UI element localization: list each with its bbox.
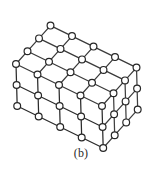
lattice-atom bbox=[89, 79, 96, 86]
lattice-atom bbox=[67, 69, 74, 76]
lattice-atom bbox=[122, 98, 129, 105]
lattice-atom bbox=[35, 92, 42, 99]
lattice-atom bbox=[99, 103, 106, 110]
lattice-atom bbox=[111, 111, 118, 118]
lattice-atom bbox=[46, 58, 53, 65]
lattice-atom bbox=[122, 77, 129, 84]
lattice-atom bbox=[78, 134, 85, 141]
lattice-atom bbox=[24, 48, 31, 55]
lattice-atom bbox=[111, 132, 118, 139]
figure-caption: (b) bbox=[0, 146, 162, 161]
lattice-atom bbox=[134, 85, 141, 92]
figure-container: (b) bbox=[0, 0, 162, 172]
lattice-atom bbox=[69, 33, 76, 40]
lattice-atom bbox=[77, 92, 84, 99]
lattice-atom bbox=[112, 54, 119, 61]
lattice-atom bbox=[35, 113, 42, 120]
lattice-atom bbox=[13, 82, 20, 89]
lattice-atom bbox=[123, 119, 130, 126]
lattice-atom bbox=[57, 124, 64, 131]
atom-layer bbox=[13, 22, 142, 151]
lattice-atom bbox=[99, 124, 106, 131]
lattice-atom bbox=[47, 22, 54, 29]
lattice-atom bbox=[100, 67, 107, 74]
lattice-atom bbox=[14, 103, 21, 110]
lattice-atom bbox=[34, 71, 41, 78]
lattice-atom bbox=[110, 90, 117, 97]
lattice-atom bbox=[90, 43, 97, 50]
bond-layer bbox=[16, 26, 138, 148]
lattice-atom bbox=[133, 64, 140, 71]
lattice-atom bbox=[56, 103, 63, 110]
lattice-atom bbox=[79, 56, 86, 63]
lattice-atom bbox=[134, 106, 141, 113]
lattice-atom bbox=[56, 82, 63, 89]
lattice-atom bbox=[78, 113, 85, 120]
lattice-atom bbox=[57, 46, 64, 53]
lattice-atom bbox=[13, 61, 20, 68]
lattice-atom bbox=[36, 35, 43, 42]
